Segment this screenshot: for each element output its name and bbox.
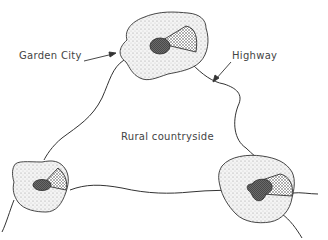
highway-arrow	[213, 62, 231, 82]
left-city	[13, 161, 69, 212]
garden-city-label: Garden City	[19, 50, 82, 61]
highway-left-exit	[2, 200, 14, 232]
rural-countryside-label: Rural countryside	[121, 131, 214, 142]
highway-right-exit	[293, 193, 318, 194]
highway-right-exit-2	[282, 214, 302, 238]
garden-city-diagram	[0, 0, 328, 240]
garden-city-arrow	[84, 52, 116, 61]
highway-top-left	[44, 60, 124, 160]
right-city	[219, 155, 295, 222]
highway-top-right	[192, 64, 262, 164]
top-city	[120, 12, 208, 80]
highway-label: Highway	[232, 50, 277, 61]
